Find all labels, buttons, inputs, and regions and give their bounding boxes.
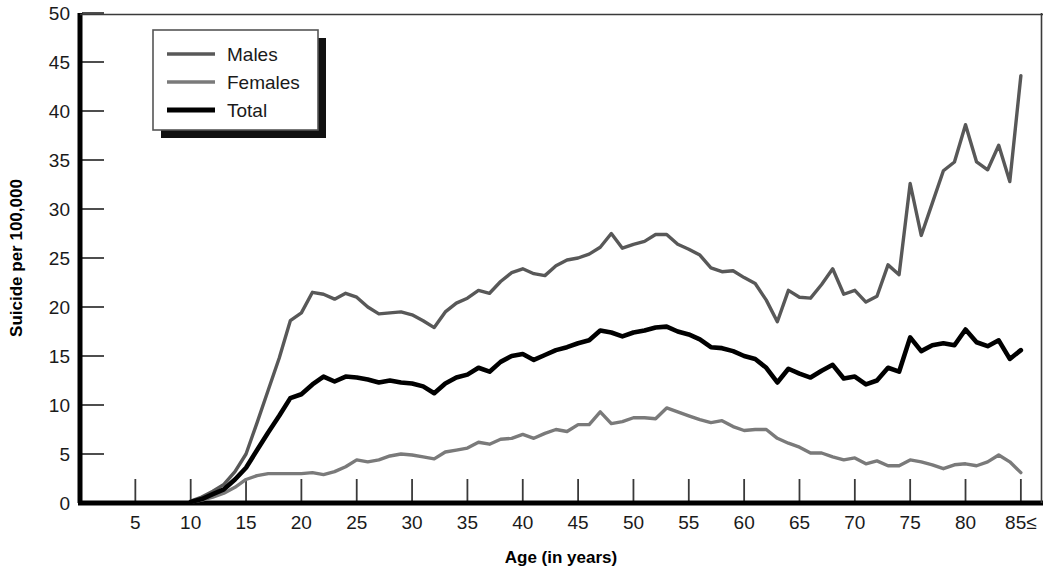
x-tick-label: 30 bbox=[401, 512, 422, 533]
y-tick-label: 35 bbox=[49, 150, 70, 171]
chart-container: 05101520253035404550 5101520253035404550… bbox=[0, 0, 1057, 581]
legend-label-males: Males bbox=[227, 44, 278, 65]
x-tick-label: 75 bbox=[900, 512, 921, 533]
x-tick-label: 60 bbox=[734, 512, 755, 533]
y-tick-label: 5 bbox=[59, 444, 70, 465]
x-tick-label: 10 bbox=[180, 512, 201, 533]
x-tick-label: 45 bbox=[568, 512, 589, 533]
legend-label-total: Total bbox=[227, 100, 267, 121]
y-tick-label: 30 bbox=[49, 199, 70, 220]
x-tick-label: 40 bbox=[512, 512, 533, 533]
x-axis-title: Age (in years) bbox=[505, 548, 617, 567]
y-tick-label: 40 bbox=[49, 101, 70, 122]
x-tick-label: 35 bbox=[457, 512, 478, 533]
chart-legend: MalesFemalesTotal bbox=[153, 30, 326, 138]
x-tick-label: 65 bbox=[789, 512, 810, 533]
y-tick-label: 45 bbox=[49, 52, 70, 73]
x-tick-label: 70 bbox=[844, 512, 865, 533]
x-tick-label: 80 bbox=[955, 512, 976, 533]
x-tick-label: 20 bbox=[291, 512, 312, 533]
line-chart: 05101520253035404550 5101520253035404550… bbox=[0, 0, 1057, 581]
x-tick-label: 15 bbox=[235, 512, 256, 533]
x-axis-title-text: Age (in years) bbox=[505, 548, 617, 567]
y-tick-label: 25 bbox=[49, 248, 70, 269]
y-tick-label: 0 bbox=[59, 493, 70, 514]
y-tick-label: 20 bbox=[49, 297, 70, 318]
y-axis-title: Suicide per 100,000 bbox=[7, 179, 26, 337]
x-tick-label: 5 bbox=[130, 512, 141, 533]
x-tick-label: 55 bbox=[678, 512, 699, 533]
x-tick-label: 25 bbox=[346, 512, 367, 533]
y-tick-label: 10 bbox=[49, 395, 70, 416]
y-tick-label: 50 bbox=[49, 3, 70, 24]
y-tick-label: 15 bbox=[49, 346, 70, 367]
legend-label-females: Females bbox=[227, 72, 300, 93]
y-axis-title-text: Suicide per 100,000 bbox=[7, 179, 26, 337]
x-tick-label: 50 bbox=[623, 512, 644, 533]
x-tick-label: 85≤ bbox=[1005, 512, 1037, 533]
